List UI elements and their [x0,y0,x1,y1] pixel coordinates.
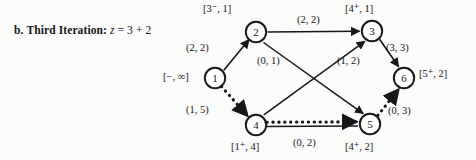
node-6-number: 6 [401,72,407,84]
edge-4-3-label: (1, 2) [337,56,360,67]
network-graph: 1 2 3 4 5 6 [0,0,476,160]
node-5-label: [4⁺, 2] [345,142,373,153]
graph-node-3[interactable]: 3 [362,21,382,41]
node-4-number: 4 [253,119,259,131]
node-6-label: [5⁺, 2] [419,69,447,80]
graph-node-1[interactable]: 1 [205,68,225,88]
node-2-label: [3⁻, 1] [203,4,231,15]
edge-1-4-label: (1, 5) [186,105,209,116]
node-5-number: 5 [367,118,373,130]
edge-1-2-label: (2, 2) [186,43,209,54]
graph-node-4[interactable]: 4 [246,115,266,135]
graph-node-2[interactable]: 2 [246,22,266,42]
node-3-number: 3 [369,25,375,37]
node-3-label: [4⁺, 1] [345,4,373,15]
edge-3-6-label: (3, 3) [386,43,409,54]
edge-4-5-label: (0, 2) [293,138,316,149]
node-4-label: [1⁺, 4] [231,142,259,153]
node-1-label: [−, ∞] [163,72,189,83]
figure-page: b. Third Iteration: z = 3 + 2 [0,0,476,160]
node-1-number: 1 [212,72,218,84]
graph-node-5[interactable]: 5 [360,114,380,134]
edge-1-4 [222,87,248,117]
edge-1-2 [224,40,249,71]
edge-2-5-label: (0, 1) [257,56,280,67]
graph-node-6[interactable]: 6 [394,68,414,88]
edge-2-3-label: (2, 2) [297,15,320,26]
edge-2-3 [268,31,360,32]
edge-5-6-label: (0, 3) [388,106,411,117]
node-2-number: 2 [253,26,259,38]
edge-4-5 [267,122,358,127]
